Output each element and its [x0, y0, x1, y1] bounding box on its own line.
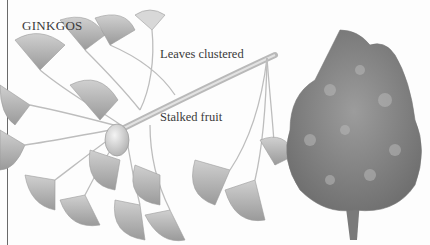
label-stalked-fruit: Stalked fruit — [160, 110, 222, 125]
illustration-page: GINKGOS Leaves clustered Stalked fruit — [0, 0, 430, 245]
ginkgo-fruit — [105, 124, 129, 156]
figure-title: GINKGOS — [22, 18, 83, 34]
label-leaves-clustered: Leaves clustered — [160, 47, 244, 62]
ginkgo-leaves — [0, 10, 295, 241]
ginkgo-tree — [287, 30, 422, 240]
